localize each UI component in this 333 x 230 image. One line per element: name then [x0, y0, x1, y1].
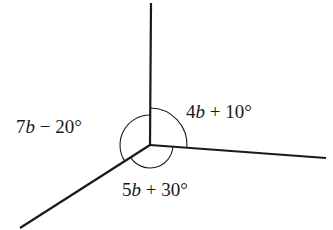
operator: + — [141, 179, 161, 200]
coef: 7 — [16, 116, 26, 137]
angle-label-upper-right: 4b + 10° — [186, 102, 252, 121]
angle-label-bottom: 5b + 30° — [122, 180, 188, 199]
variable: b — [196, 101, 206, 122]
operator: − — [35, 116, 55, 137]
angle-arc-bottom — [131, 147, 173, 168]
operator: + — [205, 101, 225, 122]
constant: 20° — [55, 116, 82, 137]
ray-up — [150, 3, 151, 145]
angle-arc-upper-right — [150, 108, 187, 148]
variable: b — [132, 179, 142, 200]
ray-right — [150, 145, 326, 158]
constant: 10° — [225, 101, 252, 122]
coef: 5 — [122, 179, 132, 200]
constant: 30° — [161, 179, 188, 200]
angle-label-left: 7b − 20° — [16, 117, 82, 136]
coef: 4 — [186, 101, 196, 122]
variable: b — [26, 116, 36, 137]
